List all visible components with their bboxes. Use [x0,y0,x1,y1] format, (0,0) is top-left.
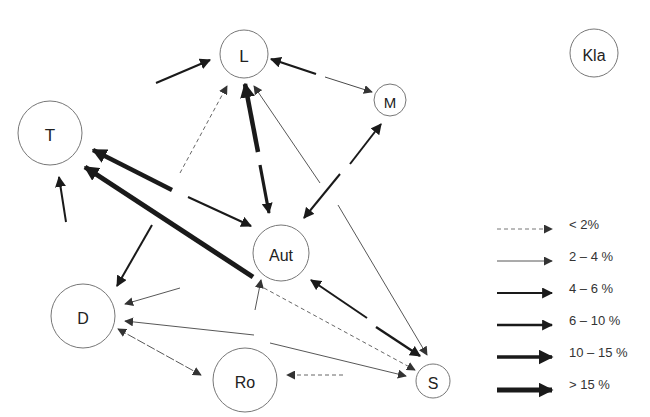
edge-Aut-T [93,150,172,190]
node-T: T [18,101,82,165]
legend-label-2-4: 2 – 4 % [569,249,613,264]
edge-Aut-L-dashed [180,86,227,173]
svg-text:Aut: Aut [269,247,294,264]
node-M: M [374,84,406,116]
edge-S-T [85,167,253,277]
edge-L-Aut [260,165,269,213]
legend-label-gt15: > 15 % [569,377,610,392]
edge-Aut-D [125,288,180,304]
legend-label-4-6: 4 – 6 % [569,281,613,296]
edge-in-L [156,60,210,83]
edges [59,59,427,376]
edge-Aut-M [350,124,381,164]
legend-label-lt2: < 2% [569,217,599,232]
edge-M-Aut [304,174,340,218]
edge-M-L [271,59,316,74]
edge-Ro-Aut [255,280,261,310]
node-Kla: Kla [570,29,618,77]
node-L: L [220,30,268,78]
edge-T-D [117,225,152,286]
edge-Aut-L [245,84,258,152]
node-D: D [51,284,115,348]
svg-text:M: M [384,94,397,111]
edge-D-S [270,343,406,376]
node-Ro: Ro [213,348,277,412]
svg-text:S: S [428,375,439,392]
legend-label-6-10: 6 – 10 % [569,313,620,328]
edge-S-Aut [311,280,367,318]
node-Aut: Aut [253,225,309,281]
edge-T-Aut [188,197,251,226]
svg-text:T: T [45,126,55,145]
svg-text:D: D [77,310,89,327]
edge-S-L [254,86,320,183]
svg-text:L: L [239,47,248,66]
edge-S-D [125,321,254,335]
legend-arrows [497,229,552,390]
flow-diagram: L M Kla T Aut D Ro S [0,0,650,417]
node-S: S [416,364,450,398]
legend-label-10-15: 10 – 15 % [569,345,628,360]
edge-in-T [59,177,66,222]
edge-L-M [325,77,372,92]
svg-text:Ro: Ro [235,374,256,391]
edge-D-Ro [118,329,201,375]
svg-text:Kla: Kla [582,47,605,64]
